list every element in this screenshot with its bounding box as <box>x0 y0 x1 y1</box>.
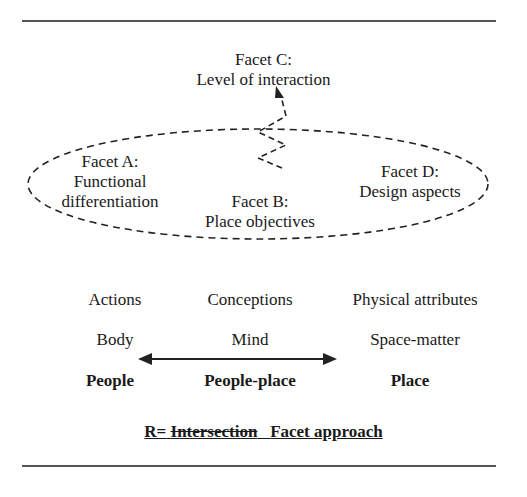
label-conceptions: Conceptions <box>180 290 320 310</box>
squiggle-arrow <box>258 100 286 168</box>
arrowhead-left-icon <box>138 353 152 365</box>
footer-formula: R= Intersection Facet approach <box>0 422 527 442</box>
footer-suffix: Facet approach <box>270 422 383 441</box>
facet-b-title: Facet B: <box>180 192 340 212</box>
label-people-place: People-place <box>170 371 330 391</box>
bottom-rule <box>22 465 496 467</box>
facet-d-title: Facet D: <box>330 162 490 182</box>
facet-a-title: Facet A: <box>50 152 170 172</box>
facet-d-subtitle: Design aspects <box>330 182 490 202</box>
facet-a-line1: Functional <box>50 172 170 192</box>
label-place: Place <box>350 371 470 391</box>
label-space-matter: Space-matter <box>340 330 490 350</box>
label-body: Body <box>60 330 170 350</box>
label-mind: Mind <box>180 330 320 350</box>
label-physical-attributes: Physical attributes <box>320 290 510 310</box>
facet-a-line2: differentiation <box>50 192 170 212</box>
facet-c-subtitle: Level of interaction <box>0 70 527 90</box>
label-people: People <box>55 371 165 391</box>
label-actions: Actions <box>60 290 170 310</box>
facet-c-title: Facet C: <box>0 50 527 70</box>
footer-prefix: R= <box>144 422 166 441</box>
facet-b-subtitle: Place objectives <box>180 212 340 232</box>
arrowhead-right-icon <box>323 353 337 365</box>
footer-struck-term: Intersection <box>171 422 258 441</box>
